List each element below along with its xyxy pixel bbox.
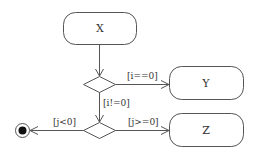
decision-node-1[interactable] (84, 77, 116, 93)
activity-diagram: X [i==0] Y [i!=0] [j<0] [j>=0] (0, 0, 262, 155)
final-node[interactable] (16, 124, 30, 138)
final-node-dot (19, 127, 27, 135)
action-z-label: Z (202, 124, 210, 137)
guard-label-i-ne-0: [i!=0] (103, 98, 130, 108)
edge-x-to-decision1 (96, 45, 104, 77)
action-node-z[interactable]: Z (170, 114, 244, 147)
action-node-y[interactable]: Y (170, 67, 244, 100)
action-x-label: X (96, 22, 104, 35)
edge-decision1-to-decision2: [i!=0] (96, 93, 130, 123)
decision-node-2[interactable] (84, 123, 116, 139)
action-y-label: Y (201, 77, 210, 90)
guard-label-j-lt-0: [j<0] (53, 117, 76, 127)
guard-label-i-eq-0: [i==0] (127, 71, 158, 81)
edge-decision2-to-final: [j<0] (30, 117, 84, 135)
action-node-x[interactable]: X (64, 13, 137, 45)
guard-label-j-ge-0: [j>=0] (128, 117, 159, 127)
edge-decision1-to-y: [i==0] (116, 71, 170, 89)
edge-decision2-to-z: [j>=0] (116, 117, 170, 135)
